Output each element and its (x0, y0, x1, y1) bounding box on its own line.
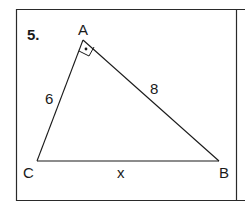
side-label-cb: x (117, 164, 125, 181)
side-label-ac: 6 (45, 90, 53, 107)
vertex-label-a: A (78, 21, 88, 38)
side-ac (37, 40, 83, 161)
right-angle-dot (85, 48, 88, 51)
triangle (37, 40, 219, 161)
side-ab (83, 40, 219, 161)
triangle-diagram: 5. A C B 6 8 x (0, 0, 245, 207)
vertex-label-c: C (23, 164, 34, 181)
vertex-label-b: B (219, 164, 229, 181)
side-label-ab: 8 (150, 80, 158, 97)
problem-number: 5. (27, 26, 40, 43)
